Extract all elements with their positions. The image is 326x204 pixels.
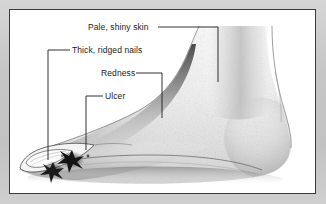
annotation-label-pale-shiny-skin: Pale, shiny skin: [88, 23, 149, 32]
annotation-label-redness: Redness: [101, 69, 135, 78]
annotation-label-thick-ridged-nails: Thick, ridged nails: [72, 46, 142, 55]
figure-plate: Pale, shiny skin Thick, ridged nails Red…: [10, 10, 315, 193]
figure-frame: Pale, shiny skin Thick, ridged nails Red…: [9, 9, 316, 194]
heel: [224, 98, 300, 178]
annotation-label-ulcer: Ulcer: [105, 92, 125, 101]
foot-illustration: [10, 10, 315, 193]
figure-root: Pale, shiny skin Thick, ridged nails Red…: [0, 0, 326, 204]
